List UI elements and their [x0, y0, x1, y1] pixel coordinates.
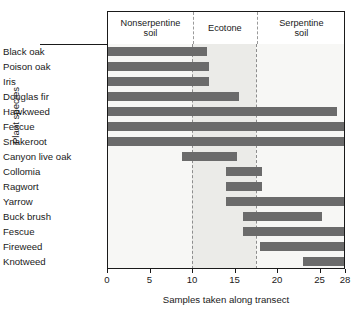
x-tick-label: 28 — [340, 274, 351, 285]
x-tick-label: 25 — [314, 274, 325, 285]
bar — [243, 227, 345, 236]
y-tick-label: Knotweed — [3, 256, 104, 267]
y-tick-label: Collomia — [3, 166, 104, 177]
bar — [182, 152, 237, 161]
x-tick-mark — [192, 269, 193, 273]
bar — [107, 92, 239, 101]
y-tick-label: Yarrow — [3, 196, 104, 207]
y-tick-label: Fescue — [3, 226, 104, 237]
zone-header-band: NonserpentinesoilEcotoneSerpentinesoil — [107, 11, 345, 44]
x-tick-mark — [277, 269, 278, 273]
bar — [303, 257, 346, 266]
bar — [107, 62, 209, 71]
zone-header-divider-1 — [193, 12, 194, 44]
bar — [243, 212, 322, 221]
zone-header-divider-2 — [257, 12, 258, 44]
x-tick-mark — [320, 269, 321, 273]
x-tick-mark — [235, 269, 236, 273]
zone-header-label-2: Ecotone — [193, 12, 257, 44]
y-tick-label: Black oak — [3, 46, 104, 57]
bar — [107, 122, 345, 131]
x-tick-label: 10 — [187, 274, 198, 285]
x-tick-label: 15 — [229, 274, 240, 285]
bar — [107, 47, 207, 56]
zone-header-label-1: Nonserpentinesoil — [108, 12, 193, 44]
bar — [107, 107, 337, 116]
zone-header-label-3: Serpentinesoil — [257, 12, 346, 44]
plot-area — [107, 44, 345, 269]
y-axis-title: Plant species — [10, 68, 21, 164]
y-tick-label: Fireweed — [3, 241, 104, 252]
zone-label-text: Nonserpentinesoil — [121, 18, 181, 39]
x-tick-mark — [150, 269, 151, 273]
bar — [260, 242, 345, 251]
x-tick-label: 0 — [104, 274, 109, 285]
y-tick-label: Ragwort — [3, 181, 104, 192]
bar — [226, 182, 262, 191]
chart-figure: NonserpentinesoilEcotoneSerpentinesoil B… — [0, 0, 357, 318]
x-tick-label: 20 — [272, 274, 283, 285]
x-axis-title: Samples taken along transect — [107, 294, 345, 305]
y-tick-label: Buck brush — [3, 211, 104, 222]
bar — [107, 77, 209, 86]
x-tick-labels: 051015202528 — [107, 269, 345, 289]
bar — [226, 167, 262, 176]
zone-label-text: Ecotone — [208, 23, 242, 34]
x-tick-label: 5 — [147, 274, 152, 285]
zone-label-text: Serpentinesoil — [279, 18, 323, 39]
x-tick-mark — [107, 269, 108, 273]
bar — [107, 137, 345, 146]
bar — [226, 197, 345, 206]
x-tick-mark — [345, 269, 346, 273]
